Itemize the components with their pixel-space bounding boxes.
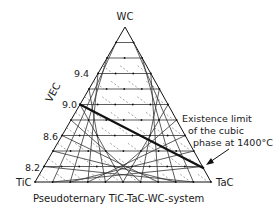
- grid-node: [193, 181, 195, 183]
- grid-node: [123, 150, 125, 152]
- grid-node: [106, 57, 108, 59]
- dashed-segment: [128, 112, 138, 120]
- grid-node: [115, 73, 117, 75]
- grid-node: [175, 150, 177, 152]
- grid-node: [159, 88, 161, 90]
- grid-node: [123, 119, 125, 121]
- grid-node: [69, 181, 71, 183]
- grid-node: [150, 104, 152, 106]
- grid-node: [114, 166, 116, 168]
- grid-node: [140, 150, 142, 152]
- grid-node: [184, 135, 186, 137]
- vec-tick-9-4: 9.4: [74, 68, 89, 79]
- grid-node: [115, 42, 117, 44]
- grid-line-diag-right: [44, 167, 193, 183]
- grid-node: [78, 166, 80, 168]
- grid-node: [96, 166, 98, 168]
- grid-node: [166, 166, 168, 168]
- grid-node: [132, 73, 134, 75]
- vec-tick-8-2: 8.2: [25, 162, 40, 173]
- grid-node: [34, 181, 36, 183]
- grid-node: [122, 181, 124, 183]
- grid-node: [210, 181, 212, 183]
- grid-node: [88, 88, 90, 90]
- dashed-segment: [58, 143, 68, 151]
- grid-node: [157, 181, 159, 183]
- grid-node: [43, 166, 45, 168]
- dashed-segment: [102, 128, 112, 136]
- grid-node: [79, 135, 81, 137]
- grid-node: [167, 135, 169, 137]
- grid-node: [87, 181, 89, 183]
- dashed-segment: [172, 159, 182, 167]
- grid-node: [124, 57, 126, 59]
- grid-node: [176, 119, 178, 121]
- grid-node: [61, 166, 63, 168]
- annotation-arrow: [206, 149, 229, 165]
- grid-node: [149, 166, 151, 168]
- dashed-segment: [111, 112, 121, 120]
- grid-node: [123, 88, 125, 90]
- annotation-line-3: phase at 1400°C: [193, 137, 273, 148]
- grid-node: [131, 166, 133, 168]
- grid-node: [140, 181, 142, 183]
- grid-node: [132, 104, 134, 106]
- dashed-segment: [128, 143, 138, 151]
- vec-tick-8-6: 8.6: [43, 131, 58, 142]
- grid-node: [150, 73, 152, 75]
- dashed-segment: [40, 174, 50, 182]
- axis-label-vec: VEC: [43, 81, 62, 104]
- dashed-segment: [110, 143, 120, 151]
- grid-node: [193, 150, 195, 152]
- dashed-segment: [129, 81, 139, 89]
- grid-node: [158, 119, 160, 121]
- grid-node: [88, 119, 90, 121]
- grid-node: [70, 119, 72, 121]
- grid-node: [184, 166, 186, 168]
- dashed-segment: [120, 66, 130, 74]
- grid-line-diag-right: [62, 136, 158, 183]
- vec-tick-9-0: 9.0: [62, 99, 77, 110]
- grid-node: [106, 88, 108, 90]
- annotation-line-2: of the cubic: [188, 125, 244, 136]
- vertex-label-tac: TaC: [215, 177, 234, 188]
- vertex-label-wc: WC: [117, 11, 134, 22]
- dashed-segment: [102, 97, 112, 105]
- grid-node: [87, 150, 89, 152]
- grid-node: [70, 150, 72, 152]
- annotation-line-1: Existence limit: [182, 113, 252, 124]
- grid-node: [175, 181, 177, 183]
- grid-node: [96, 135, 98, 137]
- grid-node: [97, 104, 99, 106]
- dashed-segment: [49, 159, 59, 167]
- grid-node: [141, 119, 143, 121]
- grid-node: [52, 181, 54, 183]
- grid-node: [114, 135, 116, 137]
- grid-node: [167, 104, 169, 106]
- vertex-label-tic: TiC: [15, 177, 32, 188]
- ternary-diagram: WC TiC TaC VEC 9.4 9.0 8.6 8.2 Existence…: [0, 0, 278, 214]
- diagram-title: Pseudoternary TiC-TaC-WC-system: [33, 193, 204, 204]
- grid-node: [52, 150, 54, 152]
- grid-node: [105, 181, 107, 183]
- grid-node: [97, 73, 99, 75]
- dashed-segment: [111, 81, 121, 89]
- grid-node: [141, 88, 143, 90]
- dashed-segment: [120, 97, 130, 105]
- grid-node: [158, 150, 160, 152]
- grid-node: [141, 57, 143, 59]
- dashed-segment: [76, 112, 86, 120]
- grid-node: [149, 135, 151, 137]
- grid-node: [132, 135, 134, 137]
- grid-node: [61, 135, 63, 137]
- grid-node: [105, 150, 107, 152]
- dashed-segment: [137, 97, 147, 105]
- grid-node: [133, 42, 135, 44]
- grid-node: [114, 104, 116, 106]
